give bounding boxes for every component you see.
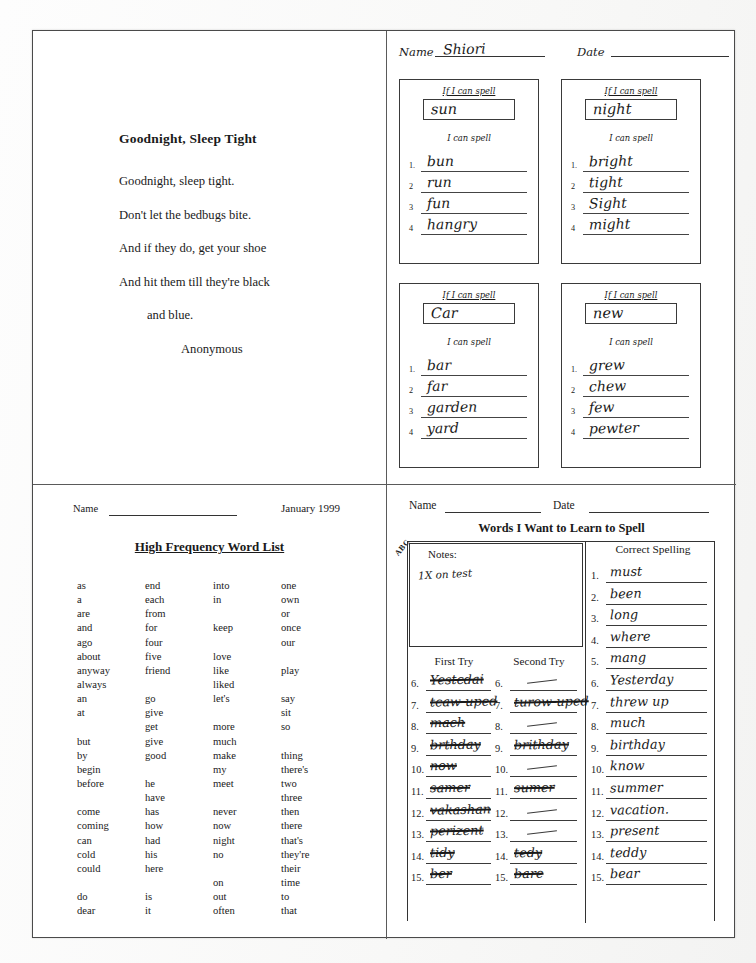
name-field[interactable] <box>445 512 541 513</box>
word-number: 2 <box>571 182 575 191</box>
word-value: fun <box>427 195 451 211</box>
word-item: or <box>281 607 355 621</box>
word-item: never <box>213 805 281 819</box>
word-list: 1. bar 2 far 3 garden 4 yard <box>400 358 538 442</box>
word-item: like <box>213 664 281 678</box>
word-value: might <box>589 216 631 233</box>
word-column: asaareandagoaboutanywayalwaysanatbutbybe… <box>77 579 145 918</box>
word-line <box>421 192 527 193</box>
answer-value: threw up <box>610 693 669 709</box>
word-row[interactable]: 1. bun <box>409 154 529 175</box>
answer-line <box>606 776 707 777</box>
word-item: four <box>145 636 213 650</box>
word-item: liked <box>213 678 281 692</box>
word-row[interactable]: 4 hangry <box>409 217 529 238</box>
poem-line: and blue. <box>119 308 359 323</box>
word-value: tight <box>589 174 623 191</box>
date-field[interactable] <box>611 43 729 57</box>
word-number: 3 <box>409 407 413 416</box>
answer-line <box>606 712 707 713</box>
spelling-row: 13.perizent13.13.present <box>387 824 717 846</box>
word-number: 3 <box>571 407 575 416</box>
row-number: 12. <box>495 808 508 819</box>
word-row[interactable]: 4 pewter <box>571 421 691 442</box>
answer-value: ber <box>430 866 452 881</box>
page-title: Words I Want to Learn to Spell <box>387 521 736 536</box>
answer-value: birthday <box>610 736 665 752</box>
row-number: 10. <box>411 764 424 775</box>
word-line <box>421 213 527 214</box>
word-line <box>583 396 689 397</box>
row-number: 13. <box>495 829 508 840</box>
word-row[interactable]: 4 might <box>571 217 691 238</box>
word-item: had <box>145 834 213 848</box>
word-item: no <box>213 848 281 862</box>
word-row[interactable]: 3 few <box>571 400 691 421</box>
answer-line <box>606 841 707 842</box>
target-word-field[interactable]: new <box>585 303 677 324</box>
answer-value: mang <box>610 650 646 666</box>
word-line <box>583 234 689 235</box>
row-number: 8. <box>411 721 419 732</box>
answer-line <box>426 798 491 799</box>
word-item: on <box>213 876 281 890</box>
answer-line <box>510 863 577 864</box>
word-row[interactable]: 2 run <box>409 175 529 196</box>
answer-line <box>426 863 491 864</box>
word-row[interactable]: 3 garden <box>409 400 529 421</box>
date-text: January 1999 <box>281 502 340 514</box>
spell-box: If I can spell Car I can spell 1. bar 2 … <box>399 283 539 468</box>
word-gap <box>213 706 281 720</box>
row-number: 3. <box>591 613 599 624</box>
word-list: 1. grew 2 chew 3 few 4 pewter <box>562 358 700 442</box>
word-value: bar <box>427 357 451 373</box>
word-value: garden <box>427 398 478 415</box>
word-list: 1. bun 2 run 3 fun 4 hangry <box>400 154 538 238</box>
word-number: 3 <box>409 203 413 212</box>
word-row[interactable]: 4 yard <box>409 421 529 442</box>
word-row[interactable]: 2 chew <box>571 379 691 400</box>
word-row[interactable]: 2 far <box>409 379 529 400</box>
word-gap <box>145 876 213 890</box>
word-item: keep <box>213 621 281 635</box>
word-row[interactable]: 3 Sight <box>571 196 691 217</box>
word-item: always <box>77 678 145 692</box>
row-number: 6. <box>591 678 599 689</box>
answer-value: know <box>610 758 645 774</box>
target-word-field[interactable]: sun <box>423 99 515 120</box>
answer-value: Yestcdai <box>430 672 484 688</box>
target-word-value: night <box>593 101 632 118</box>
word-row[interactable]: 2 tight <box>571 175 691 196</box>
word-row[interactable]: 1. bar <box>409 358 529 379</box>
spelling-row: 14.tidy14.tedy14.teddy <box>387 846 717 868</box>
answer-line <box>510 798 577 799</box>
answer-value: tcaw-uped <box>430 693 498 709</box>
target-word-field[interactable]: Car <box>423 303 515 324</box>
word-value: bright <box>589 153 633 170</box>
spelling-row: 6.Yestcdai6.6.Yesterday <box>387 673 717 695</box>
row-number: 6. <box>411 678 419 689</box>
word-row[interactable]: 1. bright <box>571 154 691 175</box>
word-row[interactable]: 3 fun <box>409 196 529 217</box>
word-item: coming <box>77 819 145 833</box>
word-item: love <box>213 650 281 664</box>
word-gap <box>213 607 281 621</box>
answer-value: vakashan <box>430 801 491 817</box>
answer-line <box>426 841 491 842</box>
word-item: let's <box>213 692 281 706</box>
word-gap <box>213 862 281 876</box>
spelling-row: 9.brthday9.brithday9.birthday <box>387 738 717 760</box>
date-field[interactable] <box>589 512 709 513</box>
word-value: yard <box>427 420 459 437</box>
word-number: 2 <box>409 182 413 191</box>
poem-line: And hit them till they're black <box>119 275 359 290</box>
target-word-field[interactable]: night <box>585 99 677 120</box>
row-number: 7. <box>411 700 419 711</box>
answer-value: must <box>610 564 642 580</box>
name-field[interactable] <box>109 515 237 516</box>
answer-line <box>426 884 491 885</box>
word-item: end <box>145 579 213 593</box>
word-number: 2 <box>571 386 575 395</box>
word-row[interactable]: 1. grew <box>571 358 691 379</box>
answer-value: vacation. <box>610 801 669 817</box>
